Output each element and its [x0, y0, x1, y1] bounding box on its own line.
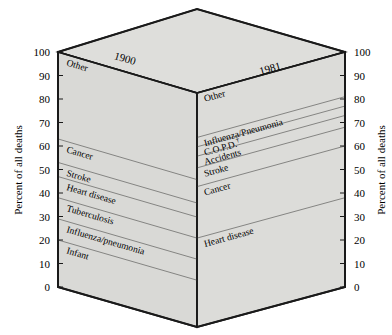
axis-tick-label: 60 — [354, 140, 366, 152]
axis-tick-label: 40 — [39, 187, 51, 199]
axis-tick-label: 80 — [354, 93, 366, 105]
axis-title-right: Percent of all deaths — [375, 125, 387, 215]
axis-tick-label: 30 — [354, 211, 366, 223]
axis-tick-label: 40 — [354, 187, 366, 199]
axis-tick-label: 0 — [354, 281, 360, 293]
axis-tick-label: 90 — [39, 70, 51, 82]
axis-title-left: Percent of all deaths — [12, 125, 24, 215]
axis-tick-label: 0 — [45, 281, 51, 293]
axis-tick-label: 100 — [34, 46, 51, 58]
axis-tick-label: 10 — [39, 258, 51, 270]
axis-tick-label: 50 — [39, 164, 51, 176]
axis-tick-label: 20 — [39, 234, 51, 246]
chart-figure: InfantInfluenza/pneumoniaTuberculosisHea… — [0, 0, 392, 335]
axis-tick-label: 70 — [39, 117, 51, 129]
axis-tick-label: 70 — [354, 117, 366, 129]
axis-tick-label: 60 — [39, 140, 51, 152]
axis-tick-label: 80 — [39, 93, 51, 105]
right-axis: 1009080706050403020100 — [340, 46, 371, 293]
axis-tick-label: 90 — [354, 70, 366, 82]
axis-tick-label: 30 — [39, 211, 51, 223]
axis-tick-label: 20 — [354, 234, 366, 246]
left-axis: 1009080706050403020100 — [34, 46, 64, 293]
axis-tick-label: 100 — [354, 46, 371, 58]
prism-chart-svg: InfantInfluenza/pneumoniaTuberculosisHea… — [0, 0, 392, 335]
axis-tick-label: 10 — [354, 258, 366, 270]
axis-tick-label: 50 — [354, 164, 366, 176]
